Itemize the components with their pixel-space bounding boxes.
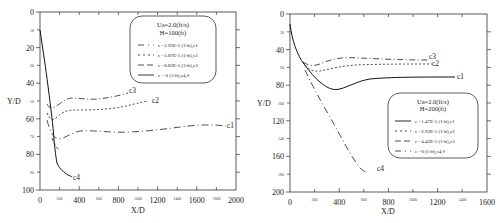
legend-title: Ua=2.0(ft/s) xyxy=(157,21,189,29)
x-tick-label: 1000 xyxy=(409,197,417,202)
y-tick-label: 200 xyxy=(272,188,284,197)
x-tick-label: 1400 xyxy=(458,197,466,202)
x-axis-label: X/D xyxy=(131,206,145,215)
curve-c2 xyxy=(47,101,148,119)
curve-label-c1: c1 xyxy=(227,121,234,130)
y-tick-label: 20 xyxy=(280,30,284,35)
x-tick-label: 200 xyxy=(57,196,63,201)
curve-label-c4: c4 xyxy=(377,164,384,173)
y-tick-label: 80 xyxy=(26,150,34,159)
y-tick-label: 50 xyxy=(30,99,34,104)
x-tick-label: 1400 xyxy=(173,196,181,201)
x-tick-label: 0 xyxy=(38,196,42,205)
curve-label-c1: c1 xyxy=(457,72,464,81)
curve-c4 xyxy=(40,30,72,177)
x-tick-label: 600 xyxy=(96,196,102,201)
legend-subtitle: H=200(ft) xyxy=(420,105,446,113)
y-tick-label: 40 xyxy=(26,79,34,88)
x-tick-label: 2000 xyxy=(228,196,244,205)
legend-right: Ua=2.0(ft/s) H=200(ft) ε =1.47E-5 (1/ft)… xyxy=(388,93,478,158)
y-tick-label: 70 xyxy=(30,134,34,139)
figure: 0 10 20 30 40 50 60 70 80 90 100 0 200 4… xyxy=(0,0,501,223)
curve-label-c4: c4 xyxy=(73,173,80,182)
legend-subtitle: H=100(ft) xyxy=(160,29,186,37)
legend-left: Ua=2.0(ft/s) H=100(ft) ε =2.93E-5 (1/ft)… xyxy=(130,16,216,83)
x-tick-label: 1200 xyxy=(150,196,166,205)
y-tick-label: 160 xyxy=(272,152,284,161)
curve-c4 xyxy=(305,70,368,173)
x-tick-label: 400 xyxy=(333,198,345,207)
chart-left: 0 10 20 30 40 50 60 70 80 90 100 0 200 4… xyxy=(7,8,244,215)
curve-c2 xyxy=(303,62,432,71)
y-axis-label: Y/D xyxy=(257,99,271,108)
x-tick-label: 600 xyxy=(361,197,367,202)
curve-label-c2: c2 xyxy=(432,59,439,68)
y-tick-label: 40 xyxy=(276,46,284,55)
x-tick-label: 1600 xyxy=(479,198,495,207)
x-axis-label: X/D xyxy=(381,207,395,216)
y-tick-label: 0 xyxy=(280,10,284,19)
curve-label-c3: c3 xyxy=(129,86,136,95)
y-tick-label: 20 xyxy=(26,44,34,53)
x-tick-label: 1000 xyxy=(134,196,142,201)
y-tick-label: 0 xyxy=(30,8,34,17)
chart-right: 0 20 40 60 80 100 120 140 160 180 200 0 … xyxy=(257,10,495,216)
y-tick-label: 60 xyxy=(280,65,284,70)
curve-c3 xyxy=(303,58,428,66)
curve-c3 xyxy=(47,93,128,108)
y-axis-label: Y/D xyxy=(7,97,21,106)
y-tick-label: 100 xyxy=(22,186,34,195)
x-tick-label: 1800 xyxy=(212,196,220,201)
curve-c1-tail xyxy=(52,138,59,150)
y-tick-label: 10 xyxy=(30,28,34,33)
y-tick-label: 60 xyxy=(26,115,34,124)
x-tick-label: 1600 xyxy=(189,196,205,205)
y-tick-label: 30 xyxy=(30,63,34,68)
x-tick-label: 1200 xyxy=(430,198,446,207)
y-tick-label: 100 xyxy=(278,101,284,106)
y-tick-label: 120 xyxy=(272,117,284,126)
y-tick-label: 140 xyxy=(278,136,284,141)
x-tick-label: 200 xyxy=(312,197,318,202)
curve-label-c2: c2 xyxy=(152,96,159,105)
x-tick-label: 800 xyxy=(382,198,394,207)
curve-c1 xyxy=(47,120,226,139)
y-tick-label: 80 xyxy=(276,81,284,90)
x-tick-label: 400 xyxy=(73,196,85,205)
x-tick-label: 0 xyxy=(288,198,292,207)
y-tick-label: 90 xyxy=(30,170,34,175)
y-tick-label: 180 xyxy=(278,172,284,177)
x-tick-label: 800 xyxy=(112,196,124,205)
